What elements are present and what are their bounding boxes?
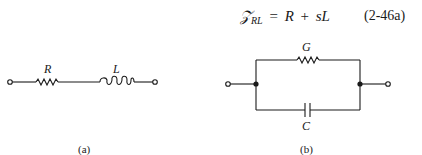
capacitor-c-icon <box>305 103 310 117</box>
node-dot-icon <box>357 81 362 86</box>
caption-b: (b) <box>300 143 313 155</box>
label-l: L <box>112 62 120 76</box>
label-r: R <box>43 62 52 76</box>
resistor-g-icon <box>297 57 319 63</box>
circuit-diagrams: R L G C <box>0 0 422 155</box>
caption-a: (a) <box>78 143 90 155</box>
parallel-gc-circuit <box>226 57 391 117</box>
terminal-icon <box>386 82 391 87</box>
resistor-r-icon <box>36 79 58 85</box>
inductor-l-icon <box>100 76 134 84</box>
label-g: G <box>302 40 311 54</box>
label-c: C <box>302 119 311 133</box>
terminal-icon <box>226 82 231 87</box>
series-rl-circuit <box>8 76 158 85</box>
terminal-icon <box>153 80 158 85</box>
terminal-icon <box>8 80 13 85</box>
node-dot-icon <box>253 81 258 86</box>
